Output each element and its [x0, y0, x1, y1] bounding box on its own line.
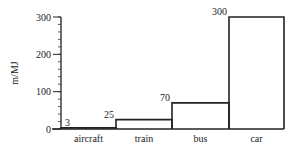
category-label-car: car	[250, 133, 263, 144]
y-tick-label: 200	[36, 49, 51, 60]
category-label-train: train	[135, 133, 153, 144]
bar-chart: 0100200300m/MJ3aircraft25train70bus300ca…	[0, 0, 298, 151]
category-label-bus: bus	[194, 133, 208, 144]
y-tick-label: 300	[36, 12, 51, 23]
y-tick-label: 0	[46, 124, 51, 135]
value-label-bus: 70	[160, 92, 170, 103]
y-tick-label: 100	[36, 86, 51, 97]
bar-bus	[172, 103, 229, 129]
y-axis-label: m/MJ	[9, 61, 20, 84]
value-label-aircraft: 3	[65, 117, 70, 128]
value-label-car: 300	[212, 6, 227, 17]
value-label-train: 25	[104, 109, 114, 120]
bar-car	[229, 17, 284, 129]
bar-train	[116, 120, 172, 129]
category-label-aircraft: aircraft	[74, 133, 103, 144]
